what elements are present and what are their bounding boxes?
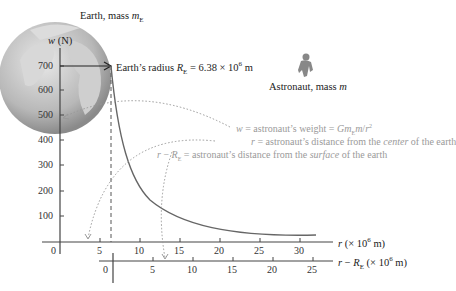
y-axis-label: w (N) bbox=[48, 36, 72, 47]
legend-surface: r − RE = astronaut’s distance from the s… bbox=[157, 150, 387, 162]
legend-surface-mid: = astronaut’s distance from the bbox=[181, 149, 309, 160]
xtick2-15: 15 bbox=[227, 265, 237, 275]
xtick2-20: 20 bbox=[267, 265, 277, 275]
ytick-500: 500 bbox=[38, 110, 53, 120]
radius-label: Earth’s radius RE = 6.38 × 106 m bbox=[116, 61, 253, 76]
earth-sub: E bbox=[139, 16, 143, 24]
legend-weight: w = astronaut’s weight = GmEm/r2 bbox=[236, 123, 372, 136]
xtick-20: 20 bbox=[214, 246, 224, 256]
x-axis2-label: r − RE (× 106 m) bbox=[338, 256, 407, 271]
xtick-30: 30 bbox=[294, 246, 304, 256]
xtick-25: 25 bbox=[254, 246, 264, 256]
legend-center: r = astronaut’s distance from the center… bbox=[251, 137, 456, 147]
legend-center-end: of the earth bbox=[408, 136, 456, 147]
earth-label-text: Earth, mass bbox=[80, 10, 132, 21]
ytick-700: 700 bbox=[38, 61, 53, 71]
astronaut-text: Astronaut, mass bbox=[269, 81, 339, 92]
xtick2-5: 5 bbox=[150, 265, 155, 275]
xtick-0: 0 bbox=[51, 246, 56, 256]
xtick2-0: 0 bbox=[103, 265, 108, 275]
xtick2-10: 10 bbox=[187, 265, 197, 275]
ytick-200: 200 bbox=[38, 186, 53, 196]
radius-val: = 6.38 × 10 bbox=[187, 62, 238, 73]
radius-unit: m bbox=[242, 62, 253, 73]
legend-center-em: center bbox=[383, 136, 408, 147]
x-axis-label: r (× 106 m) bbox=[338, 237, 385, 249]
radius-text: Earth’s radius bbox=[116, 62, 177, 73]
xtick2-25: 25 bbox=[307, 265, 317, 275]
astronaut-icon bbox=[298, 54, 313, 78]
earth-label: Earth, mass mE bbox=[80, 11, 144, 24]
legend-surface-em: surface bbox=[310, 149, 339, 160]
astronaut-label: Astronaut, mass m bbox=[269, 82, 347, 93]
xtick-5: 5 bbox=[97, 246, 102, 256]
ytick-100: 100 bbox=[38, 211, 53, 221]
ytick-600: 600 bbox=[38, 85, 53, 95]
ytick-300: 300 bbox=[38, 160, 53, 170]
ytick-400: 400 bbox=[38, 135, 53, 145]
astronaut-sym: m bbox=[339, 81, 347, 92]
legend-surface-end: of the earth bbox=[339, 149, 387, 160]
xtick-15: 15 bbox=[174, 246, 184, 256]
xtick-10: 10 bbox=[134, 246, 144, 256]
